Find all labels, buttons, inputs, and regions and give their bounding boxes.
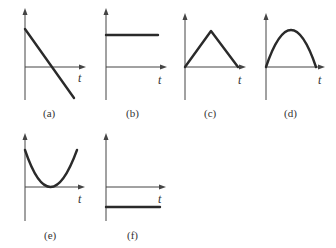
panel-a: t (a): [23, 8, 87, 120]
t-axis-arrow-icon: [318, 65, 325, 70]
caption-f: (f): [127, 229, 138, 242]
caption-a: (a): [43, 107, 56, 120]
panel-c: t (c): [183, 13, 247, 120]
caption-e: (e): [44, 229, 57, 242]
t-axis-arrow-icon: [239, 65, 246, 70]
graphs-figure: t (a) t (b) t (c) t (d) t: [0, 0, 336, 248]
panel-b: t (b): [104, 8, 168, 120]
t-label: t: [78, 71, 82, 85]
y-axis-arrow-icon: [23, 8, 28, 15]
t-axis-arrow-icon: [159, 185, 166, 190]
y-axis-arrow-icon: [104, 133, 109, 140]
panel-d: t (d): [264, 13, 326, 120]
t-axis-arrow-icon: [78, 185, 85, 190]
curve-e: [25, 150, 77, 187]
panel-f: t (f): [104, 133, 167, 242]
y-axis-arrow-icon: [23, 133, 28, 140]
t-axis-arrow-icon: [79, 65, 86, 70]
caption-b: (b): [126, 107, 139, 120]
curve-c: [185, 31, 238, 67]
y-axis-arrow-icon: [183, 13, 188, 20]
y-axis-arrow-icon: [264, 13, 269, 20]
t-axis-arrow-icon: [160, 65, 167, 70]
t-label: t: [318, 73, 322, 87]
curve-a: [25, 29, 74, 98]
t-label: t: [78, 192, 82, 206]
caption-c: (c): [204, 107, 217, 120]
panel-e: t (e): [23, 133, 86, 242]
y-axis-arrow-icon: [104, 8, 109, 15]
caption-d: (d): [284, 107, 297, 120]
t-label: t: [238, 73, 242, 87]
t-label: t: [158, 73, 162, 87]
curve-d: [266, 30, 316, 67]
t-label: t: [158, 192, 162, 206]
